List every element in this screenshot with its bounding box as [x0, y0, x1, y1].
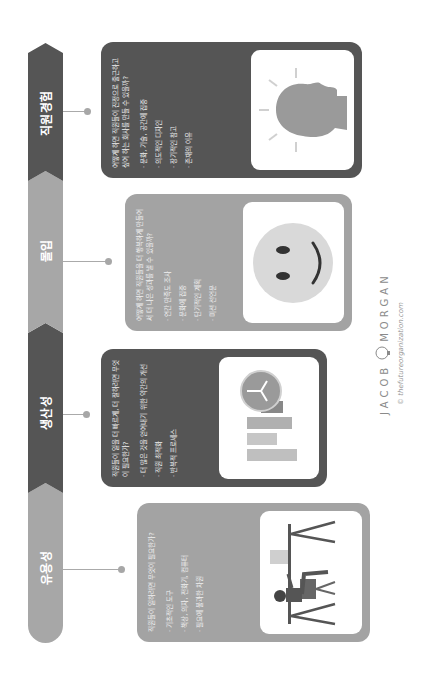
infographic-rotated: 유용성 생산성 몰입 직원경험 직원들이 일하려면 무엇이 필요한가? 기초적인… — [0, 0, 421, 675]
timeline-band: 유용성 생산성 몰입 직원경험 — [28, 43, 63, 643]
card-employee-experience-question: 어떻게 하면 직원들이 진정으로 출근하고 싶어 하는 회사를 만들 수 있을까… — [111, 52, 131, 168]
connector-productivity — [63, 414, 85, 415]
connector-utility — [63, 569, 122, 570]
card-productivity: 직원들이 일을 더 빠르게, 더 잘하려면 무엇이 필요한가? 더 많은 것을 … — [101, 349, 327, 487]
card-productivity-bullet: 직원 최적화 — [154, 359, 164, 477]
card-productivity-question: 직원들이 일을 더 빠르게, 더 잘하려면 무엇이 필요한가? — [111, 359, 131, 477]
connector-engagement — [63, 261, 108, 262]
card-engagement-bullet: 문화에 집중 — [178, 204, 188, 321]
stage-label-productivity: 생산성 — [28, 348, 63, 478]
brand-url: © thefutureorganization.com — [397, 245, 405, 415]
card-engagement-bullet: 연간 만족도 조사 — [163, 204, 173, 321]
connector-dot-utility — [118, 566, 125, 573]
card-productivity-text: 직원들이 일을 더 빠르게, 더 잘하려면 무엇이 필요한가? 더 많은 것을 … — [111, 359, 184, 477]
stage-label-engagement: 몰입 — [28, 188, 63, 313]
brand-logo: JACOB MORGAN © thefutureorganization.com — [375, 245, 405, 415]
card-utility-question: 직원들이 일하려면 무엇이 필요한가? — [147, 513, 157, 632]
stage-label-employee-experience: 직원경험 — [28, 58, 63, 168]
card-employee-experience-text: 어떻게 하면 직원들이 진정으로 출근하고 싶어 하는 회사를 만들 수 있을까… — [111, 52, 199, 168]
card-employee-experience-bullet: 장기적인 참고 — [169, 52, 179, 168]
card-employee-experience-bullets: 문화, 기술, 공간에 집중 의도적인 디자인 장기적인 참고 존재의 이유 — [139, 52, 194, 168]
card-utility-bullet: 기초적인 도구 — [165, 513, 175, 632]
card-engagement-text: 어떻게 하면 직원들을 더 행복하게 만들어서 더 나은 성과를 낼 수 있을까… — [135, 204, 223, 321]
card-utility: 직원들이 일하려면 무엇이 필요한가? 기초적인 도구 책상, 의자, 전화기,… — [137, 503, 370, 642]
card-productivity-bullet: 반복적 프로세스 — [169, 359, 179, 477]
card-utility-bullets: 기초적인 도구 책상, 의자, 전화기, 컴퓨터 필요에 불과한 차원 — [165, 513, 205, 632]
stage-label-utility: 유용성 — [28, 513, 63, 623]
card-engagement-question: 어떻게 하면 직원들을 더 행복하게 만들어서 더 나은 성과를 낼 수 있을까… — [135, 204, 155, 321]
card-productivity-bullets: 더 많은 것을 얻어내기 위한 약간의 개선 직원 최적화 반복적 프로세스 — [139, 359, 179, 477]
connector-dot-productivity — [83, 411, 90, 418]
card-engagement-bullets: 연간 만족도 조사 문화에 집중 단기적인 계획 미션 선언문 — [163, 204, 218, 321]
card-utility-text: 직원들이 일하려면 무엇이 필요한가? 기초적인 도구 책상, 의자, 전화기,… — [147, 513, 210, 632]
connector-dot-employee-experience — [84, 108, 91, 115]
card-engagement: 어떻게 하면 직원들을 더 행복하게 만들어서 더 나은 성과를 낼 수 있을까… — [125, 194, 352, 331]
card-employee-experience-bullet: 의도적인 디자인 — [154, 52, 164, 168]
head-lightbulb-icon — [251, 50, 354, 170]
card-utility-bullet: 필요에 불과한 차원 — [195, 513, 205, 632]
card-employee-experience-bullet: 문화, 기술, 공간에 집중 — [139, 52, 149, 168]
bar-chart-clock-icon — [219, 357, 319, 479]
brand-name-left: JACOB — [379, 364, 390, 415]
connector-employee-experience — [63, 111, 86, 112]
brand-name: JACOB MORGAN — [375, 245, 393, 415]
smiley-face-icon — [243, 202, 344, 323]
person-at-desk-illustration — [260, 511, 362, 634]
card-utility-bullet: 책상, 의자, 전화기, 컴퓨터 — [180, 513, 190, 632]
card-employee-experience: 어떻게 하면 직원들이 진정으로 출근하고 싶어 하는 회사를 만들 수 있을까… — [101, 42, 362, 178]
card-employee-experience-bullet: 존재의 이유 — [184, 52, 194, 168]
card-productivity-bullet: 더 많은 것을 얻어내기 위한 약간의 개선 — [139, 359, 149, 477]
connector-dot-engagement — [105, 258, 112, 265]
card-engagement-bullet: 미션 선언문 — [208, 204, 218, 321]
lightbulb-logo-icon — [375, 345, 393, 361]
brand-name-right: MORGAN — [379, 272, 390, 342]
card-engagement-bullet: 단기적인 계획 — [193, 204, 203, 321]
